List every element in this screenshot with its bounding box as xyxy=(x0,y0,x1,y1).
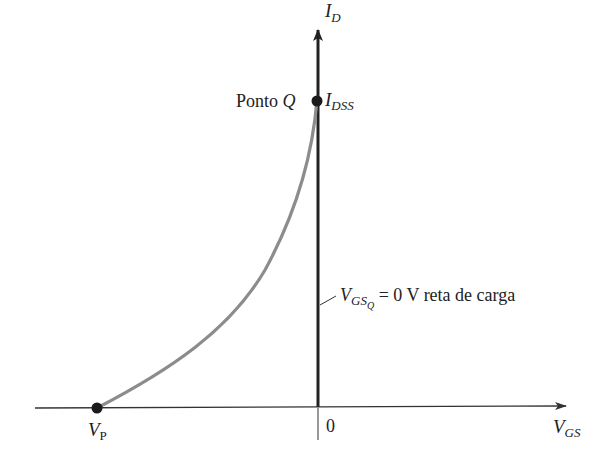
vp-label: VP xyxy=(88,419,107,443)
pinch-off-dot xyxy=(92,403,103,414)
q-point-label: Ponto Q xyxy=(236,91,296,111)
transfer-curve xyxy=(97,100,317,408)
vgs-axis-label: VGS xyxy=(553,416,581,440)
vgs-axis xyxy=(35,406,566,408)
load-line-label: VGSQ = 0 V reta de carga xyxy=(340,285,515,311)
origin-label: 0 xyxy=(326,416,335,436)
jfet-transfer-diagram: ID Ponto Q IDSS VGSQ = 0 V reta de carga… xyxy=(0,0,612,470)
load-line-leader xyxy=(320,296,336,305)
id-axis-label: ID xyxy=(324,0,341,25)
q-point-dot xyxy=(312,96,323,107)
idss-label: IDSS xyxy=(324,89,354,113)
